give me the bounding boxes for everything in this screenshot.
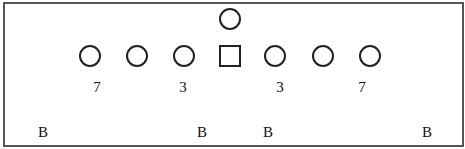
- b-label: B: [263, 125, 273, 140]
- backfield-player-circle: [219, 8, 241, 30]
- gap-label: 7: [358, 80, 366, 95]
- b-label: B: [422, 125, 432, 140]
- lineman-circle: [173, 45, 195, 67]
- b-label: B: [38, 125, 48, 140]
- lineman-circle: [359, 45, 381, 67]
- lineman-circle: [79, 45, 101, 67]
- lineman-circle: [126, 45, 148, 67]
- center-square: [219, 45, 241, 67]
- b-label: B: [197, 125, 207, 140]
- lineman-circle: [264, 45, 286, 67]
- gap-label: 3: [276, 80, 284, 95]
- lineman-circle: [312, 45, 334, 67]
- gap-label: 3: [179, 80, 187, 95]
- gap-label: 7: [93, 80, 101, 95]
